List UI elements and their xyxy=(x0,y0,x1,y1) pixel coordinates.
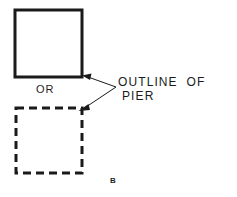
solid-pier-square xyxy=(15,10,82,77)
or-label: OR xyxy=(36,84,55,95)
pier-annotation-text: OUTLINE OF PIER xyxy=(118,76,205,102)
figure-id-label: B xyxy=(110,177,116,185)
annotation-line-two: PIER xyxy=(122,90,205,102)
dashed-pier-square xyxy=(16,108,82,173)
leader-arrowhead-lower-icon xyxy=(79,104,91,111)
annotation-line-one: OUTLINE OF xyxy=(118,76,205,88)
leader-line-lower xyxy=(86,87,116,107)
leader-line-upper xyxy=(88,77,116,87)
engineering-figure: OR OUTLINE OF PIER B xyxy=(0,0,237,197)
